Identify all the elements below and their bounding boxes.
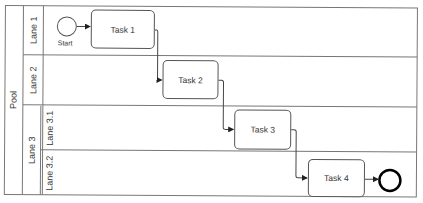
lane2-label: Lane 2 <box>23 55 42 105</box>
start-event-icon[interactable] <box>57 17 76 36</box>
end-event-icon[interactable] <box>379 170 400 191</box>
lane2-lane3-separator <box>23 105 417 107</box>
task-3[interactable]: Task 3 <box>234 109 291 149</box>
lane1-lane2-separator <box>23 55 417 57</box>
lane1-label-text: Lane 1 <box>28 16 38 44</box>
lane31-lane32-separator <box>41 150 417 152</box>
task-1-label: Task 1 <box>110 24 135 34</box>
task-4-label: Task 4 <box>324 173 349 183</box>
lane3-1-label-text: Lane 3.1 <box>45 110 55 145</box>
lane3-label-text: Lane 3 <box>26 136 36 164</box>
lane1-label: Lane 1 <box>24 5 43 55</box>
bpmn-diagram: Pool Lane 1 Lane 2 Lane 3 Lane 3.1 Lane … <box>0 0 423 203</box>
start-event-label: Start <box>58 39 73 46</box>
pool-label-text: Pool <box>8 91 18 109</box>
flow-task2-task3[interactable] <box>218 80 233 129</box>
pool-label: Pool <box>4 5 23 195</box>
task-2[interactable]: Task 2 <box>162 60 218 99</box>
task-2-label: Task 2 <box>178 75 203 85</box>
lane3-2-label-text: Lane 3.2 <box>44 155 54 190</box>
task-3-label: Task 3 <box>250 125 275 135</box>
lane3-2-label: Lane 3.2 <box>41 150 58 195</box>
lane2-label-text: Lane 2 <box>28 66 38 94</box>
task-4[interactable]: Task 4 <box>308 159 365 197</box>
flow-task3-task4[interactable] <box>291 130 307 178</box>
task-1[interactable]: Task 1 <box>91 10 155 49</box>
lane3-label: Lane 3 <box>23 105 41 195</box>
lane3-1-label: Lane 3.1 <box>41 105 58 150</box>
